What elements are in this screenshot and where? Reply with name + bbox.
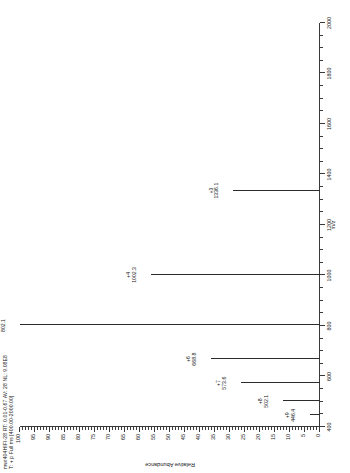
y-axis-minor-tick [277,427,278,430]
y-axis-tick-label: 95 [31,434,36,440]
y-axis-tick-label: 10 [286,434,291,440]
y-axis-tick: 50 [169,427,170,432]
y-axis-tick: 5 [304,427,305,432]
y-axis-tick: 30 [229,427,230,432]
y-axis-tick-label: 45 [181,434,186,440]
spectrum-canvas: mwt404HIFI-28 RT: 0.01-0.67 AV: 28 NL: 9… [0,0,350,473]
y-axis-tick: 0 [319,427,320,432]
x-axis-minor-tick [320,413,323,414]
y-axis-minor-tick [37,427,38,430]
y-axis-tick-label: 85 [61,434,66,440]
x-axis-minor-tick [320,249,323,250]
y-axis-minor-tick [22,427,23,430]
peak-mz-value: 446.4 [291,409,297,422]
y-axis-minor-tick [307,427,308,430]
y-axis-tick-label: 60 [136,434,141,440]
y-axis-tick: 90 [49,427,50,432]
y-axis-tick-label: 0 [316,434,321,437]
x-axis-tick: 1600 [320,123,325,124]
y-axis-tick-label: 55 [151,434,156,440]
y-axis-minor-tick [52,427,53,430]
y-axis-minor-tick [148,427,149,430]
x-axis-tick-label: 2000 [327,17,332,29]
spectrum-peak [310,414,321,415]
y-axis-minor-tick [295,427,296,430]
y-axis-minor-tick [55,427,56,430]
y-axis-minor-tick [253,427,254,430]
y-axis-minor-tick [61,427,62,430]
x-axis-tick: 1800 [320,73,325,74]
y-axis-minor-tick [190,427,191,430]
y-axis-minor-tick [85,427,86,430]
y-axis-minor-tick [313,427,314,430]
y-axis-minor-tick [208,427,209,430]
y-axis-tick-label: 15 [271,434,276,440]
y-axis-minor-tick [130,427,131,430]
y-axis-tick: 15 [274,427,275,432]
x-axis-minor-tick [320,363,323,364]
y-axis-tick-label: 70 [106,434,111,440]
y-axis-minor-tick [46,427,47,430]
y-axis-minor-tick [160,427,161,430]
y-axis-minor-tick [205,427,206,430]
y-axis-minor-tick [40,427,41,430]
x-axis-tick-label: 1800 [327,68,332,80]
y-axis-minor-tick [145,427,146,430]
plot-area: 0510152025303540455055606570758085909510… [20,23,320,427]
y-axis-minor-tick [247,427,248,430]
y-axis-minor-tick [250,427,251,430]
y-axis-minor-tick [133,427,134,430]
x-axis-minor-tick [320,388,323,389]
x-axis-tick-label: 1400 [327,169,332,181]
y-axis-minor-tick [193,427,194,430]
y-axis-minor-tick [271,427,272,430]
spectrum-peak [211,358,321,359]
y-axis-minor-tick [232,427,233,430]
x-axis-minor-tick [320,300,323,301]
y-axis-minor-tick [88,427,89,430]
header-line-scan-filter: T: + p Full ms [400.00-2000.00] [8,355,14,469]
y-axis-minor-tick [262,427,263,430]
y-axis-minor-tick [142,427,143,430]
peak-label: +7573.6 [216,377,227,390]
y-axis-tick: 20 [259,427,260,432]
y-axis-tick: 35 [214,427,215,432]
y-axis-minor-tick [112,427,113,430]
peak-label: +5802.1 [0,319,7,332]
y-axis-minor-tick [73,427,74,430]
spectrum-peak [283,400,321,401]
x-axis-minor-tick [320,60,323,61]
y-axis-minor-tick [76,427,77,430]
y-axis-minor-tick [151,427,152,430]
x-axis-minor-tick [320,262,323,263]
y-axis-minor-tick [100,427,101,430]
x-axis-minor-tick [320,199,323,200]
peak-label: +8502.1 [258,395,269,408]
x-axis-tick: 800 [320,325,325,326]
y-axis-tick: 45 [184,427,185,432]
y-axis-tick: 65 [124,427,125,432]
x-axis-tick-label: 1000 [327,270,332,282]
y-axis-minor-tick [115,427,116,430]
y-axis-minor-tick [157,427,158,430]
x-axis-minor-tick [320,350,323,351]
y-axis-minor-tick [292,427,293,430]
y-axis-title: Relative Abundance [145,462,195,468]
y-axis-tick-label: 100 [16,434,21,443]
y-axis-tick: 80 [79,427,80,432]
y-axis-tick: 55 [154,427,155,432]
y-axis-tick: 10 [289,427,290,432]
x-axis-minor-tick [320,161,323,162]
y-axis-minor-tick [127,427,128,430]
x-axis-minor-tick [320,186,323,187]
y-axis-minor-tick [136,427,137,430]
peak-label: +6668.8 [186,353,197,366]
y-axis-minor-tick [280,427,281,430]
x-axis-minor-tick [320,110,323,111]
x-axis-line [319,23,320,427]
y-axis-tick: 95 [34,427,35,432]
y-axis-minor-tick [25,427,26,430]
y-axis-minor-tick [301,427,302,430]
peak-mz-value: 668.8 [192,353,198,366]
y-axis-minor-tick [316,427,317,430]
